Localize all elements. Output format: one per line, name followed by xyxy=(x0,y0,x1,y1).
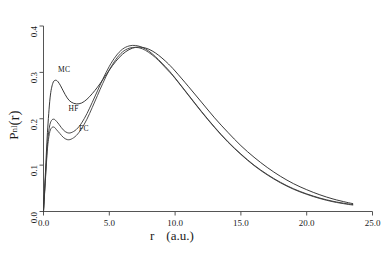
y-tick-host-2: 0.2 xyxy=(10,114,34,124)
plot-canvas xyxy=(0,0,388,254)
curve-annotation-mc: MC xyxy=(58,65,70,74)
x-tick-label-4: 20.0 xyxy=(299,218,315,228)
x-axis-label: r(a.u.) xyxy=(150,228,194,244)
y-tick-label-0: 0.0 xyxy=(29,212,39,236)
y-axis-label-sub: nl xyxy=(9,125,19,132)
y-tick-host-3: 0.3 xyxy=(10,67,34,77)
y-tick-label-2: 0.2 xyxy=(29,119,39,143)
series-line-mc xyxy=(44,47,353,211)
x-tick-label-1: 5.0 xyxy=(104,218,115,228)
y-tick-label-3: 0.3 xyxy=(29,72,39,96)
x-axis-label-symbol: r xyxy=(150,228,154,243)
series-line-hf xyxy=(44,45,353,211)
y-tick-label-4: 0.4 xyxy=(29,26,39,50)
x-tick-label-5: 25.0 xyxy=(365,218,381,228)
series-line-fc xyxy=(44,47,353,211)
y-axis-label-base: P xyxy=(6,132,22,139)
x-tick-label-3: 15.0 xyxy=(233,218,249,228)
curve-annotation-hf: HF xyxy=(69,104,79,113)
x-axis-label-units: (a.u.) xyxy=(166,228,193,243)
y-tick-label-1: 0.1 xyxy=(29,165,39,189)
x-tick-label-0: 0.0 xyxy=(38,218,49,228)
y-tick-host-4: 0.4 xyxy=(10,21,34,31)
x-tick-label-2: 10.0 xyxy=(167,218,183,228)
y-tick-host-0: 0.0 xyxy=(10,207,34,217)
chart-figure: Pnl(r) r(a.u.) 0.05.010.015.020.025.00.0… xyxy=(0,0,388,254)
y-tick-host-1: 0.1 xyxy=(10,160,34,170)
curve-annotation-fc: FC xyxy=(79,124,89,133)
